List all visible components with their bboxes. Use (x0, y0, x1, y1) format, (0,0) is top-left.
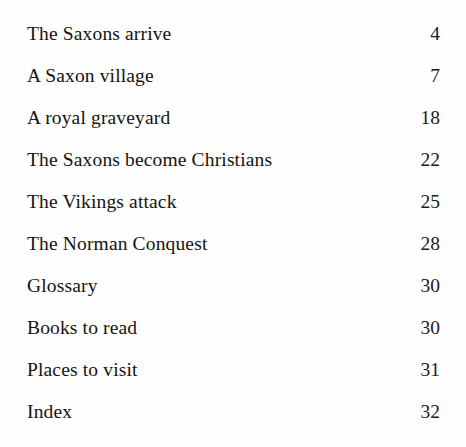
toc-entry[interactable]: The Saxons become Christians 22 (27, 139, 440, 181)
toc-entry-title: The Vikings attack (27, 181, 177, 223)
toc-entry-title: A royal graveyard (27, 97, 170, 139)
toc-entry[interactable]: Books to read 30 (27, 307, 440, 349)
toc-entry-page: 18 (414, 97, 440, 139)
toc-entry[interactable]: The Saxons arrive 4 (27, 13, 440, 55)
table-of-contents: The Saxons arrive 4 A Saxon village 7 A … (0, 0, 466, 447)
toc-entry-title: Books to read (27, 307, 137, 349)
toc-entry[interactable]: A Saxon village 7 (27, 55, 440, 97)
toc-entry[interactable]: Index 32 (27, 391, 440, 433)
toc-entry-title: Glossary (27, 265, 98, 307)
toc-entry[interactable]: The Vikings attack 25 (27, 181, 440, 223)
toc-entry-page: 31 (414, 349, 440, 391)
toc-entry-title: A Saxon village (27, 55, 154, 97)
toc-entry[interactable]: Glossary 30 (27, 265, 440, 307)
toc-entry-page: 4 (414, 13, 440, 55)
toc-entry-page: 25 (414, 181, 440, 223)
toc-entry[interactable]: The Norman Conquest 28 (27, 223, 440, 265)
toc-entry[interactable]: A royal graveyard 18 (27, 97, 440, 139)
toc-entry-page: 7 (414, 55, 440, 97)
toc-entry-title: The Saxons arrive (27, 13, 171, 55)
toc-entry[interactable]: Places to visit 31 (27, 349, 440, 391)
toc-entry-title: Places to visit (27, 349, 138, 391)
toc-entry-page: 30 (414, 265, 440, 307)
toc-entry-page: 28 (414, 223, 440, 265)
toc-entry-page: 30 (414, 307, 440, 349)
toc-entry-title: The Norman Conquest (27, 223, 207, 265)
toc-entry-page: 32 (414, 391, 440, 433)
toc-entry-title: Index (27, 391, 72, 433)
toc-entry-page: 22 (414, 139, 440, 181)
toc-entry-title: The Saxons become Christians (27, 139, 272, 181)
